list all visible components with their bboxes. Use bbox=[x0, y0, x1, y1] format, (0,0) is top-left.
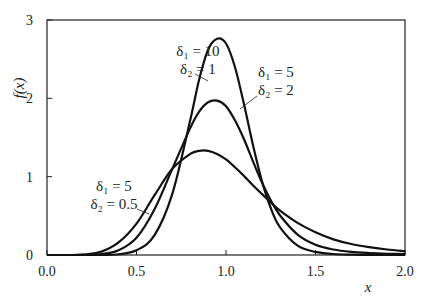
y-tick-label: 2 bbox=[26, 91, 33, 106]
x-tick-label: 1.0 bbox=[217, 264, 235, 279]
annotation-series1-line1: δ₁ = 10 bbox=[176, 43, 219, 59]
annotation-series3-line1: δ₁ = 5 bbox=[96, 178, 132, 194]
annotation-series2-line1: δ₁ = 5 bbox=[258, 64, 294, 80]
y-tick-label: 3 bbox=[26, 13, 33, 28]
x-tick-label: 2.0 bbox=[396, 264, 414, 279]
plot-frame bbox=[47, 20, 405, 255]
axis-ticks: 0.00.51.01.52.00123 bbox=[26, 13, 414, 279]
curves bbox=[47, 38, 405, 255]
x-axis-label: x bbox=[364, 279, 372, 295]
y-tick-label: 1 bbox=[26, 170, 33, 185]
y-axis-label: f(x) bbox=[11, 78, 28, 99]
chart: 0.00.51.01.52.00123 f(x) x δ₁ = 10 δ₂ = … bbox=[0, 0, 429, 305]
x-tick-label: 0.5 bbox=[128, 264, 146, 279]
curve-series-1 bbox=[47, 38, 405, 255]
annotation-series1-line2: δ₂ = 1 bbox=[180, 61, 216, 77]
x-tick-label: 0.0 bbox=[38, 264, 56, 279]
annotation-series2-line2: δ₂ = 2 bbox=[258, 82, 294, 98]
x-tick-label: 1.5 bbox=[307, 264, 325, 279]
annotation-series3-line2: δ₂ = 0.5 bbox=[90, 196, 137, 212]
y-tick-label: 0 bbox=[26, 248, 33, 263]
